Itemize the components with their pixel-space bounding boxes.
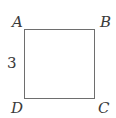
vertex-label-c: C bbox=[98, 101, 109, 116]
vertex-label-b: B bbox=[100, 15, 111, 30]
square-abcd bbox=[24, 29, 95, 99]
vertex-label-a: A bbox=[12, 15, 23, 30]
vertex-label-d: D bbox=[11, 101, 23, 116]
side-length-label: 3 bbox=[7, 56, 17, 71]
